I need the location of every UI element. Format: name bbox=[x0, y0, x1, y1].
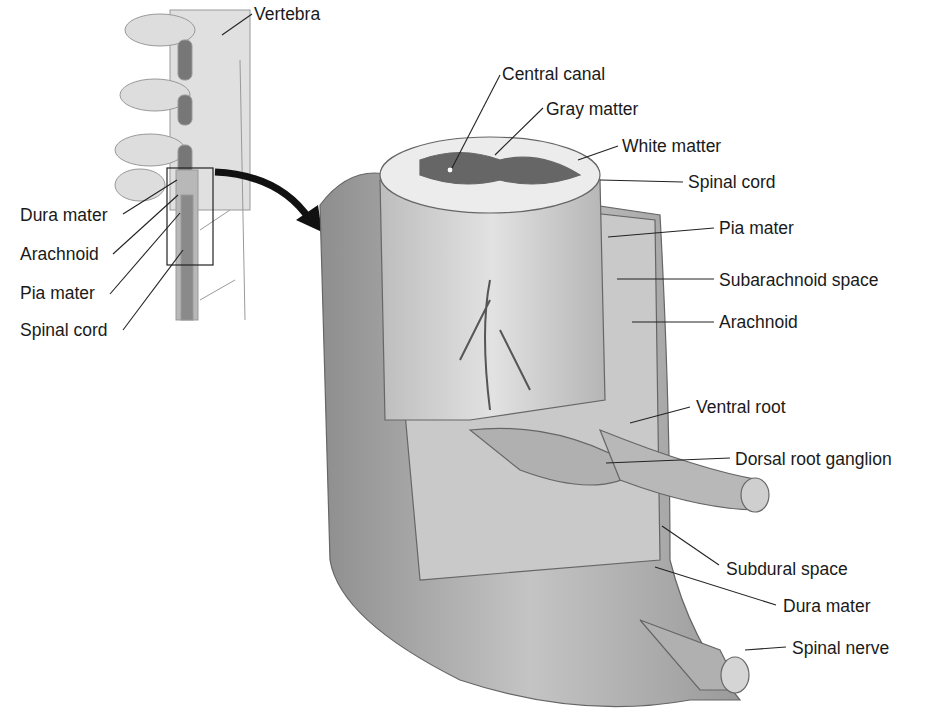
vertebral-column-inset bbox=[115, 10, 250, 320]
label-vertebra: Vertebra bbox=[254, 6, 320, 24]
label-subarachnoid-space: Subarachnoid space bbox=[719, 272, 879, 290]
label-spinal-nerve: Spinal nerve bbox=[792, 640, 889, 658]
label-dorsal-root-ganglion: Dorsal root ganglion bbox=[735, 451, 892, 469]
main-cross-section bbox=[320, 137, 769, 707]
label-central-canal: Central canal bbox=[502, 66, 605, 84]
label-pia-mater: Pia mater bbox=[719, 220, 794, 238]
spinal-cord-meninges-diagram: Vertebra Dura mater Arachnoid Pia mater … bbox=[0, 0, 926, 715]
label-inset-spinal-cord: Spinal cord bbox=[20, 322, 108, 340]
label-white-matter: White matter bbox=[622, 138, 721, 156]
label-gray-matter: Gray matter bbox=[546, 101, 638, 119]
label-inset-arachnoid: Arachnoid bbox=[20, 246, 99, 264]
label-dura-mater: Dura mater bbox=[783, 598, 871, 616]
label-inset-dura-mater: Dura mater bbox=[20, 207, 108, 225]
label-subdural-space: Subdural space bbox=[726, 561, 848, 579]
label-inset-pia-mater: Pia mater bbox=[20, 285, 95, 303]
label-spinal-cord: Spinal cord bbox=[688, 174, 776, 192]
label-arachnoid: Arachnoid bbox=[719, 314, 798, 332]
label-ventral-root: Ventral root bbox=[696, 399, 786, 417]
